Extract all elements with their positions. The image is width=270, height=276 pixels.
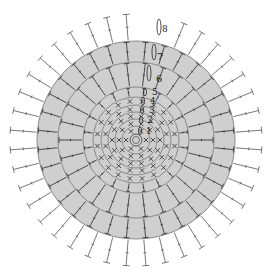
round-label-1: 1 <box>146 126 152 136</box>
round-label-3: 3 <box>149 105 155 115</box>
round-label-5: 5 <box>152 87 158 97</box>
round-label-8: 8 <box>162 24 168 34</box>
round-label-2: 2 <box>147 115 153 125</box>
round-label-4: 4 <box>150 96 156 106</box>
round-label-7: 7 <box>157 51 163 62</box>
crochet-diagram: 1 2 3 4 5 6 7 8 <box>0 0 270 276</box>
round-label-6: 6 <box>156 73 162 84</box>
